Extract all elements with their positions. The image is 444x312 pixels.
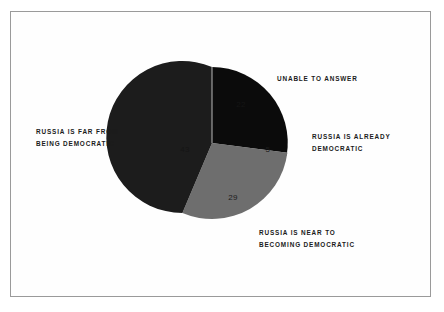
pie-label-line: UNABLE TO ANSWER bbox=[277, 73, 358, 85]
pie-label-line: BEING DEMOCRATIC bbox=[36, 138, 118, 150]
pie-chart-canvas: 22 5 29 43 bbox=[0, 0, 444, 312]
pie-label-line: RUSSIA IS NEAR TO bbox=[259, 227, 355, 239]
pie-label-line: DEMOCRATIC bbox=[312, 143, 391, 155]
pie-label-line: RUSSIA IS ALREADY bbox=[312, 131, 391, 143]
pie-label-already-democratic: RUSSIA IS ALREADY DEMOCRATIC bbox=[312, 131, 391, 154]
pie-label-near-becoming-democratic: RUSSIA IS NEAR TO BECOMING DEMOCRATIC bbox=[259, 227, 355, 250]
pie-label-line: RUSSIA IS FAR FROM bbox=[36, 126, 118, 138]
pie-label-far-from-democratic: RUSSIA IS FAR FROM BEING DEMOCRATIC bbox=[36, 126, 118, 149]
pie-label-unable-to-answer: UNABLE TO ANSWER bbox=[277, 73, 358, 85]
pie-label-line: BECOMING DEMOCRATIC bbox=[259, 239, 355, 251]
pie-value-already-democratic: 5 bbox=[266, 145, 271, 154]
pie-svg: 22 5 29 43 bbox=[0, 0, 444, 312]
pie-chart-figure: 22 5 29 43 UNABLE TO ANSWER RUSSIA IS AL… bbox=[0, 0, 444, 312]
pie-value-unable-to-answer: 22 bbox=[236, 100, 246, 109]
pie-value-near-becoming-democratic: 29 bbox=[228, 193, 238, 202]
pie-value-far-from-democratic: 43 bbox=[180, 145, 190, 154]
